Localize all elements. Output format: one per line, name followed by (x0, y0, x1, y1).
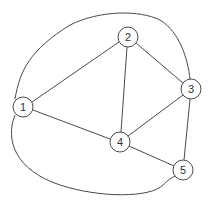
node-1: 1 (13, 97, 33, 117)
edge-2-3 (136, 43, 183, 83)
graph-diagram: 1 2 3 4 5 (0, 0, 211, 203)
node-3-label: 3 (188, 83, 194, 95)
node-4: 4 (110, 132, 130, 152)
edge-3-5 (184, 99, 190, 160)
edge-2-4 (121, 47, 127, 132)
node-5: 5 (173, 160, 193, 180)
node-4-label: 4 (117, 136, 123, 148)
node-2: 2 (118, 27, 138, 47)
node-1-label: 1 (20, 101, 26, 113)
edge-1-2 (32, 42, 119, 102)
edge-3-4 (128, 95, 183, 136)
node-2-label: 2 (125, 31, 131, 43)
edge-4-5 (129, 146, 174, 166)
edge-1-5-curved (11, 115, 176, 195)
node-5-label: 5 (180, 164, 186, 176)
edge-1-4 (33, 110, 110, 139)
node-3: 3 (181, 79, 201, 99)
edge-1-3-curved (15, 13, 190, 99)
